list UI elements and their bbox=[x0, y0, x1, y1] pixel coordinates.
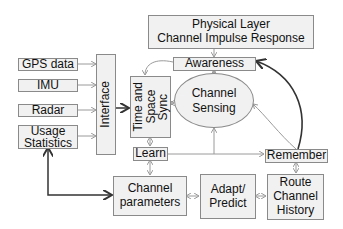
arrow-awareness-sync bbox=[145, 61, 173, 75]
sync-line2: Space bbox=[144, 82, 157, 132]
radar-box: Radar bbox=[18, 104, 78, 117]
route-channel-history-box: Route Channel History bbox=[267, 174, 324, 220]
imu-box: IMU bbox=[18, 79, 78, 92]
usage-line2: Statistics bbox=[24, 137, 72, 149]
imu-label: IMU bbox=[37, 79, 59, 93]
interface-box: Interface bbox=[96, 54, 116, 155]
gps-label: GPS data bbox=[22, 58, 74, 72]
channel-parameters-box: Channel parameters bbox=[113, 176, 187, 216]
sync-line1: Time and bbox=[132, 82, 145, 132]
radar-label: Radar bbox=[32, 104, 65, 118]
arrow-usage-params bbox=[48, 149, 112, 195]
arrow-remember-sensing bbox=[253, 104, 296, 149]
learn-label: Learn bbox=[135, 147, 166, 161]
channel-sensing-line1: Channel bbox=[192, 86, 237, 101]
adapt-predict-box: Adapt/ Predict bbox=[200, 174, 256, 219]
remember-label: Remember bbox=[267, 149, 326, 163]
awareness-label: Awareness bbox=[185, 57, 244, 71]
route-line2: Channel bbox=[273, 190, 318, 204]
adapt-line2: Predict bbox=[209, 197, 246, 211]
adapt-line1: Adapt/ bbox=[211, 183, 246, 197]
time-space-sync-box: Time and Space Sync bbox=[130, 76, 171, 138]
params-line2: parameters bbox=[120, 196, 181, 210]
interface-label: Interface bbox=[99, 81, 113, 128]
sync-line3: Sync bbox=[157, 82, 170, 132]
channel-sensing-ellipse: Channel Sensing bbox=[174, 73, 254, 128]
params-line1: Channel bbox=[128, 182, 173, 196]
arrow-remember-awareness bbox=[256, 61, 302, 149]
route-line3: History bbox=[277, 204, 314, 218]
usage-statistics-box: Usage Statistics bbox=[18, 125, 78, 149]
gps-data-box: GPS data bbox=[18, 58, 78, 71]
physical-layer-line2: Channel Impulse Response bbox=[157, 32, 304, 46]
awareness-box: Awareness bbox=[173, 57, 256, 71]
channel-sensing-line2: Sensing bbox=[192, 101, 235, 116]
remember-box: Remember bbox=[265, 149, 328, 163]
learn-box: Learn bbox=[133, 147, 168, 161]
physical-layer-line1: Physical Layer bbox=[192, 18, 270, 32]
route-line1: Route bbox=[279, 176, 311, 190]
physical-layer-box: Physical Layer Channel Impulse Response bbox=[148, 15, 314, 49]
